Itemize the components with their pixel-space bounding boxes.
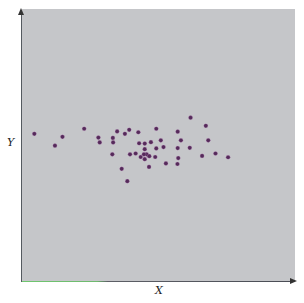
data-point: [142, 152, 146, 156]
data-point: [188, 116, 192, 120]
data-point: [153, 155, 157, 159]
scatter-points: [0, 0, 304, 303]
data-point: [82, 127, 86, 131]
data-point: [143, 147, 147, 151]
data-point: [204, 124, 208, 128]
data-point: [176, 130, 180, 134]
data-point: [96, 136, 100, 140]
data-point: [143, 157, 147, 161]
data-point: [128, 152, 132, 156]
data-point: [53, 144, 57, 148]
x-axis-label: X: [155, 284, 163, 297]
data-point: [161, 145, 165, 149]
data-point: [147, 154, 151, 158]
data-point: [179, 138, 183, 142]
data-point: [123, 132, 127, 136]
data-point: [134, 151, 138, 155]
data-point: [111, 136, 115, 140]
data-point: [143, 141, 147, 145]
data-point: [111, 140, 115, 144]
data-point: [154, 146, 158, 150]
data-point: [164, 161, 168, 165]
data-point: [127, 128, 131, 132]
data-point: [120, 167, 124, 171]
data-point: [213, 151, 217, 155]
data-point: [188, 146, 192, 150]
data-point: [147, 165, 151, 169]
data-point: [226, 155, 230, 159]
data-point: [32, 132, 36, 136]
data-point: [98, 140, 102, 144]
data-point: [159, 138, 163, 142]
data-point: [125, 179, 129, 183]
data-point: [136, 130, 140, 134]
data-point: [60, 135, 64, 139]
data-point: [137, 141, 141, 145]
data-point: [200, 154, 204, 158]
y-axis-label: Y: [7, 136, 14, 149]
data-point: [110, 152, 114, 156]
data-point: [176, 156, 180, 160]
data-point: [176, 146, 180, 150]
data-point: [115, 129, 119, 133]
data-point: [154, 127, 158, 131]
data-point: [149, 140, 153, 144]
data-point: [206, 138, 210, 142]
data-point: [175, 162, 179, 166]
